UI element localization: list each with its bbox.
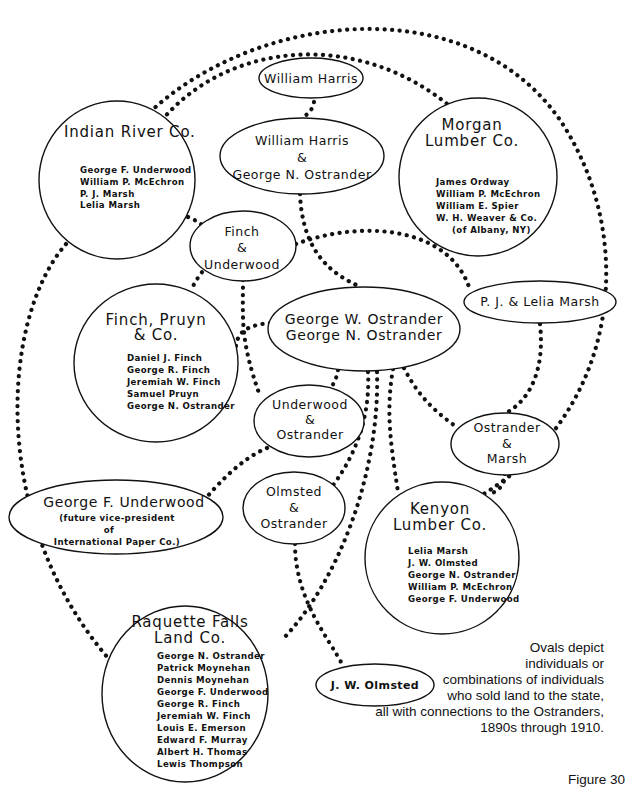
- node-finch-underwood: Finch & Underwood: [190, 211, 296, 281]
- node-line: George N. Ostrander: [286, 327, 443, 343]
- link-pj-marsh-ostrander-marsh: [506, 324, 541, 413]
- member-name: William E. Spier: [436, 201, 519, 211]
- node-title: Lumber Co.: [393, 516, 487, 534]
- node-ostranders: George W. Ostrander George N. Ostrander: [268, 287, 460, 371]
- node-indian-river: Indian River Co. George F. Underwood Wil…: [39, 101, 196, 259]
- member-name: Jeremiah W. Finch: [156, 711, 251, 721]
- node-line: &: [502, 436, 512, 451]
- node-title: P. J. & Lelia Marsh: [480, 294, 599, 309]
- link-indian-river-raquette: [17, 244, 108, 658]
- node-title: Lumber Co.: [425, 132, 519, 150]
- caption-line: who sold land to the state,: [244, 688, 604, 704]
- member-name: Jeremiah W. Finch: [126, 377, 221, 387]
- node-pj-lelia-marsh: P. J. & Lelia Marsh: [464, 281, 616, 323]
- link-ostranders-underwood-ostrander: [330, 370, 338, 388]
- member-name: Lelia Marsh: [80, 200, 140, 210]
- node-note: of: [104, 525, 114, 535]
- member-name: George N. Ostrander: [127, 401, 235, 411]
- node-olmsted-ostrander: Olmsted & Ostrander: [243, 472, 345, 544]
- member-name: J. W. Olmsted: [407, 558, 478, 568]
- node-line: Olmsted: [266, 484, 322, 499]
- member-name: William P. McEchron: [436, 189, 541, 199]
- caption-line: Ovals depict: [244, 640, 604, 656]
- node-note: International Paper Co.): [54, 537, 180, 547]
- node-line: Ostrander: [276, 427, 344, 442]
- member-name: Edward F. Murray: [157, 735, 248, 745]
- figure-label: Figure 30: [568, 772, 625, 787]
- node-title: William Harris: [264, 71, 358, 86]
- node-line: &: [305, 412, 315, 427]
- member-name: George F. Underwood: [80, 165, 192, 175]
- member-name: William P. McEchron: [408, 582, 513, 592]
- link-harris-harris-ostrander: [300, 102, 314, 118]
- caption-line: 1890s through 1910.: [244, 720, 604, 736]
- node-line: &: [237, 240, 247, 255]
- node-underwood-ostrander: Underwood & Ostrander: [254, 385, 364, 457]
- member-name: Patrick Moynehan: [157, 663, 250, 673]
- node-morgan-lumber: Morgan Lumber Co. James Ordway William P…: [399, 98, 557, 256]
- node-line: Underwood: [272, 397, 348, 412]
- node-line: Underwood: [204, 257, 280, 272]
- node-line: &: [297, 150, 307, 165]
- link-ostranders-ostrander-marsh: [404, 368, 458, 428]
- member-name: Dennis Moynehan: [157, 675, 249, 685]
- node-line: Ostrander: [260, 516, 328, 531]
- node-title: & Co.: [134, 326, 179, 344]
- member-name: George F. Underwood: [408, 594, 520, 604]
- node-ostrander-marsh: Ostrander & Marsh: [451, 413, 559, 475]
- link-ostranders-kenyon: [389, 369, 398, 492]
- member-name: (of Albany, NY): [452, 225, 531, 235]
- caption-line: combinations of individuals: [244, 672, 604, 688]
- node-line: George W. Ostrander: [285, 311, 443, 327]
- member-name: Lelia Marsh: [408, 546, 468, 556]
- node-finch-pruyn: Finch, Pruyn & Co. Daniel J. Finch Georg…: [74, 284, 238, 442]
- member-name: P. J. Marsh: [80, 189, 135, 199]
- link-finch-pruyn-ostranders: [236, 323, 270, 346]
- node-title: Land Co.: [154, 629, 226, 647]
- member-name: James Ordway: [435, 177, 509, 187]
- member-name: W. H. Weaver & Co.: [436, 213, 537, 223]
- node-line: George N. Ostrander: [232, 167, 371, 182]
- member-name: Albert H. Thomas: [157, 747, 248, 757]
- node-line: &: [289, 500, 299, 515]
- member-name: George N. Ostrander: [408, 570, 516, 580]
- caption-line: individuals or: [244, 656, 604, 672]
- node-line: Ostrander: [473, 420, 541, 435]
- node-line: Finch: [225, 224, 260, 239]
- member-name: William P. McEchron: [80, 177, 185, 187]
- node-george-underwood: George F. Underwood (future vice-preside…: [9, 480, 223, 554]
- node-note: (future vice-president: [59, 513, 174, 523]
- member-name: Daniel J. Finch: [127, 353, 202, 363]
- node-harris-ostrander: William Harris & George N. Ostrander: [220, 118, 384, 194]
- member-name: George R. Finch: [157, 699, 240, 709]
- member-name: Samuel Pruyn: [127, 389, 199, 399]
- node-line: Marsh: [487, 451, 528, 466]
- diagram-caption: Ovals depict individuals or combinations…: [244, 640, 604, 736]
- member-name: Louis E. Emerson: [157, 723, 246, 733]
- node-william-harris: William Harris: [259, 58, 363, 98]
- link-finch-underwood-underwood-ostrander: [243, 280, 260, 396]
- node-line: William Harris: [255, 133, 349, 148]
- node-title: Indian River Co.: [64, 123, 196, 141]
- node-title: George F. Underwood: [43, 494, 204, 510]
- member-name: Lewis Thompson: [157, 759, 243, 769]
- member-name: George R. Finch: [127, 365, 210, 375]
- node-kenyon-lumber: Kenyon Lumber Co. Lelia Marsh J. W. Olms…: [365, 482, 520, 634]
- caption-line: all with connections to the Ostranders,: [244, 704, 604, 720]
